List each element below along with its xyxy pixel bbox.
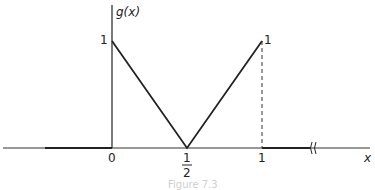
y-tick-right: 1 bbox=[264, 33, 272, 47]
x-tick-half-num: 1 bbox=[183, 151, 191, 165]
figure-caption: Figure 7.3 bbox=[168, 179, 218, 190]
graph-figure: g(x) 1 1 0 1 2 1 x Figure 7.3 bbox=[0, 0, 375, 190]
x-tick-one: 1 bbox=[258, 151, 266, 165]
function-curve bbox=[112, 41, 262, 148]
x-tick-zero: 0 bbox=[108, 151, 116, 165]
y-axis-label: g(x) bbox=[116, 5, 140, 19]
x-tick-half-den: 2 bbox=[183, 166, 191, 180]
y-tick-left: 1 bbox=[100, 33, 108, 47]
x-axis-label: x bbox=[363, 151, 372, 165]
